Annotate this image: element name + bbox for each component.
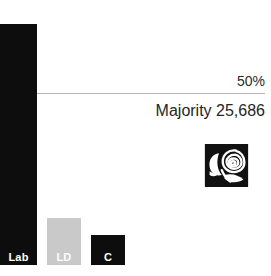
bar-ld: LD	[47, 218, 81, 265]
threshold-label-50-percent: 50%	[237, 72, 265, 90]
bar-label-c: C	[91, 251, 125, 263]
majority-caption: Majority 25,686	[156, 101, 265, 121]
bar-label-ld: LD	[47, 251, 81, 263]
labour-rose-logo	[203, 142, 250, 189]
threshold-line	[37, 93, 265, 94]
bar-c: C	[91, 235, 125, 265]
bar-label-lab: Lab	[0, 251, 37, 263]
bar-lab: Lab	[0, 24, 37, 265]
election-bar-chart: 50% Majority 25,686 Lab	[0, 0, 271, 276]
